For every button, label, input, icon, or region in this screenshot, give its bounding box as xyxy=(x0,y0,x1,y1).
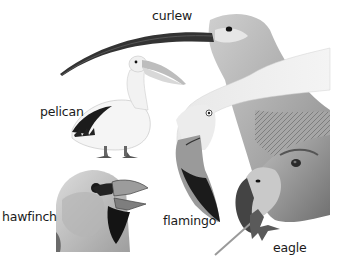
label-pelican: pelican xyxy=(40,106,84,119)
label-hawfinch: hawfinch xyxy=(2,211,57,224)
label-flamingo: flamingo xyxy=(163,215,216,228)
hawfinch-figure xyxy=(56,170,148,252)
label-eagle: eagle xyxy=(273,242,306,255)
bird-beaks-illustration: curlew pelican hawfinch flamingo eagle xyxy=(0,0,341,270)
label-curlew: curlew xyxy=(152,10,192,23)
pelican-figure xyxy=(72,56,186,158)
illustration-artwork xyxy=(0,0,341,270)
